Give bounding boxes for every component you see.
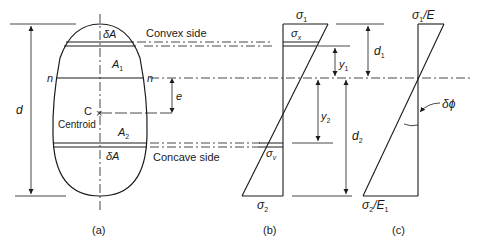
a2-label: A2	[117, 126, 129, 140]
convex-side-label: Convex side	[146, 27, 207, 39]
dphi-arc	[404, 124, 418, 126]
sigma2-over-e1-label: σ2/E1	[362, 198, 389, 213]
caption-b: (b)	[263, 224, 276, 236]
sigma1-label: σ1	[296, 8, 307, 23]
y2-label: y2	[320, 110, 331, 124]
d2-label: d2	[352, 129, 363, 144]
sigma1-over-e-label: σ1/E	[412, 8, 435, 23]
y1-label: y1	[338, 58, 349, 72]
concave-side-label: Concave side	[153, 151, 220, 163]
d-label: d	[16, 103, 23, 117]
dphi-label: δϕ	[442, 97, 456, 111]
b-stress-line	[242, 24, 328, 196]
delta-a-bottom-label: δA	[106, 150, 119, 162]
centroid-label: Centroid	[58, 119, 96, 130]
d1-label: d1	[374, 44, 385, 59]
c-label: C	[84, 105, 92, 117]
panel-a-cross-section: × δA A1 n n C Centroid A2 δA d e Convex …	[10, 14, 220, 236]
dphi-leader	[420, 103, 440, 112]
sigmax-label: σx	[291, 27, 302, 41]
a1-label: A1	[111, 58, 123, 72]
curved-beam-stress-diagram: × δA A1 n n C Centroid A2 δA d e Convex …	[0, 0, 480, 246]
e-label: e	[176, 90, 182, 102]
panel-c-strain-distribution: δϕ σ1/E σ2/E1 (c)	[362, 8, 456, 236]
n-left-label: n	[47, 72, 53, 84]
delta-a-top-label: δA	[103, 28, 116, 40]
sigmav-label: σv	[266, 147, 277, 161]
sigma2-label: σ2	[257, 198, 268, 213]
caption-a: (a)	[92, 224, 105, 236]
caption-c: (c)	[392, 224, 405, 236]
reference-lines	[137, 42, 470, 147]
